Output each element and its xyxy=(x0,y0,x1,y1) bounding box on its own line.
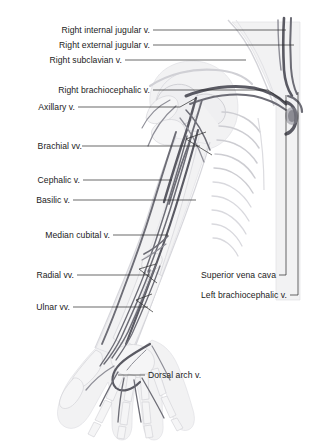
label-left-brachiocephalic-vein: Left brachiocephalic v. xyxy=(201,290,287,300)
label-right-internal-jugular-vein: Right internal jugular v. xyxy=(61,25,150,35)
anatomical-figure: Right internal jugular v. Right external… xyxy=(0,0,309,443)
label-basilic-vein: Basilic v. xyxy=(36,195,70,205)
label-median-cubital-vein: Median cubital v. xyxy=(45,230,110,240)
label-axillary-vein: Axillary v. xyxy=(38,102,75,112)
label-right-external-jugular-vein: Right external jugular v. xyxy=(59,40,150,50)
label-cephalic-vein: Cephalic v. xyxy=(38,175,80,185)
torso-soft-tissue xyxy=(228,20,300,300)
label-superior-vena-cava: Superior vena cava xyxy=(201,270,276,280)
label-right-brachiocephalic-vein: Right brachiocephalic v. xyxy=(58,85,150,95)
label-dorsal-arch-vein: Dorsal arch v. xyxy=(148,370,201,380)
label-radial-veins: Radial vv. xyxy=(36,270,74,280)
label-brachial-veins: Brachial vv. xyxy=(38,141,82,151)
label-right-subclavian-vein: Right subclavian v. xyxy=(50,55,122,65)
label-ulnar-veins: Ulnar vv. xyxy=(36,302,70,312)
